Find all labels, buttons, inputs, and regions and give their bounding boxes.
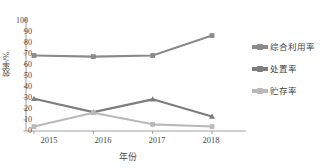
y-tick-label-30: 30 xyxy=(12,94,32,102)
legend-label: 综合利用率 xyxy=(270,42,315,52)
y-tick-label-50: 50 xyxy=(12,72,32,80)
x-axis-label: 年份 xyxy=(0,150,255,163)
x-tick-label-2016: 2016 xyxy=(83,136,123,145)
legend-item-storage-rate[interactable]: 贮存率 xyxy=(252,80,333,102)
y-tick-label-40: 40 xyxy=(12,83,32,91)
y-tick-label-70: 70 xyxy=(12,50,32,58)
legend-label: 处置率 xyxy=(270,64,297,74)
y-tick-label-0: 0 xyxy=(12,127,32,135)
y-tick-label-80: 80 xyxy=(12,39,32,47)
y-tick-label-20: 20 xyxy=(12,105,32,113)
legend-swatch-icon xyxy=(252,67,268,71)
y-tick-label-100: 100 xyxy=(8,17,28,25)
legend-swatch-icon xyxy=(252,45,268,49)
legend: 综合利用率 处置率 贮存率 xyxy=(252,36,333,102)
legend-label: 贮存率 xyxy=(270,86,297,96)
y-tick-label-90: 90 xyxy=(12,28,32,36)
y-tick-label-10: 10 xyxy=(12,116,32,124)
legend-item-disposal-rate[interactable]: 处置率 xyxy=(252,58,333,80)
legend-swatch-icon xyxy=(252,89,268,93)
x-tick-label-2015: 2015 xyxy=(29,136,69,145)
y-tick-label-60: 60 xyxy=(12,61,32,69)
x-tick-label-2017: 2017 xyxy=(137,136,177,145)
legend-item-comprehensive-utilization-rate[interactable]: 综合利用率 xyxy=(252,36,333,58)
x-tick-label-2018: 2018 xyxy=(191,136,231,145)
line-chart: 效率/% 年份 0 10 20 30 40 50 60 70 80 90 100… xyxy=(0,0,333,168)
